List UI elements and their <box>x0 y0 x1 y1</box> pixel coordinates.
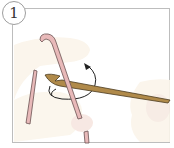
arrow-head-icon <box>84 63 91 70</box>
crochet-illustration <box>0 0 174 148</box>
step-number: 1 <box>9 4 19 22</box>
step-number-badge: 1 <box>2 1 26 25</box>
yarn-strand-bottom <box>84 131 89 143</box>
